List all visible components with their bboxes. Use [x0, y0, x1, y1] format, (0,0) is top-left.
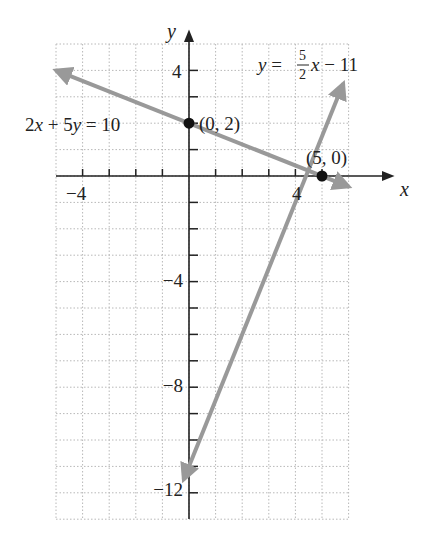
- x-tick-label-4: 4: [292, 183, 302, 204]
- coordinate-plane: x y −4 4 4 −4 −8 −12 (0, 2) (5, 0) 2x + …: [0, 0, 422, 541]
- point-label-0-2: (0, 2): [199, 113, 240, 135]
- y-tick-label-4: 4: [172, 61, 182, 82]
- x-axis-label: x: [399, 178, 409, 200]
- y-tick-label-neg4: −4: [163, 270, 184, 291]
- svg-text:y =: y =: [256, 54, 282, 75]
- point-marker: [317, 171, 328, 182]
- chart: x y −4 4 4 −4 −8 −12 (0, 2) (5, 0) 2x + …: [0, 0, 422, 541]
- equation-label-line1: 2x + 5y = 10: [25, 114, 120, 135]
- equation-label-line2: y = 5 2 x − 11: [256, 48, 358, 82]
- y-axis-label: y: [165, 20, 176, 43]
- x-tick-label-neg4: −4: [66, 183, 87, 204]
- svg-text:x − 11: x − 11: [310, 54, 358, 75]
- y-tick-label-neg12: −12: [153, 479, 183, 500]
- point-marker: [184, 118, 195, 129]
- y-tick-label-neg8: −8: [163, 375, 183, 396]
- svg-text:2: 2: [299, 67, 306, 82]
- point-label-5-0: (5, 0): [306, 147, 347, 169]
- svg-text:5: 5: [299, 48, 306, 63]
